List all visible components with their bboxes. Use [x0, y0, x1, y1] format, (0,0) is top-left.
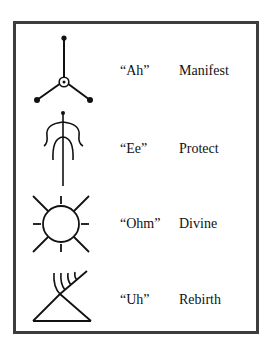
triangle-branch-icon: [31, 269, 93, 325]
sound-label: “Uh”: [120, 292, 150, 308]
symbol-chart-frame: “Ah” Manifest “Ee” Protect: [13, 21, 259, 334]
sound-label: “Ah”: [120, 63, 150, 79]
figure-with-arms-icon: [39, 110, 87, 186]
three-branch-node-icon: [28, 34, 98, 104]
meaning-label: Manifest: [179, 63, 229, 79]
sound-label: “Ee”: [120, 141, 147, 157]
sound-label: “Ohm”: [120, 216, 160, 232]
meaning-label: Divine: [179, 216, 217, 232]
meaning-label: Protect: [179, 141, 219, 157]
sun-rays-icon: [30, 193, 92, 255]
meaning-label: Rebirth: [179, 292, 221, 308]
